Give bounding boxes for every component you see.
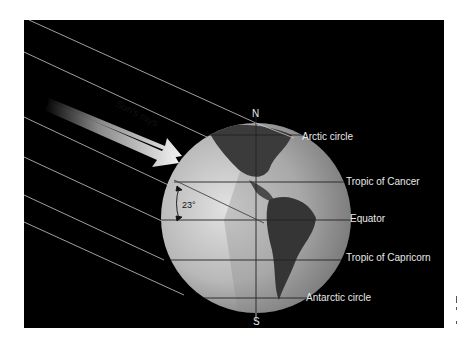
diagram-panel: Sun's rays N S 23° Arctic circle Tropic … xyxy=(24,20,444,328)
sun-rays-arrow xyxy=(44,98,182,167)
tropic-of-cancer-label: Tropic of Cancer xyxy=(346,176,420,187)
antarctic-circle-label: Antarctic circle xyxy=(306,292,371,303)
tropic-of-capricorn-label: Tropic of Capricorn xyxy=(346,252,431,263)
earth-diagram-svg xyxy=(24,20,444,328)
equator-label: Equator xyxy=(350,213,385,224)
south-pole-label: S xyxy=(253,316,260,327)
edge-mark xyxy=(456,321,457,324)
north-pole-label: N xyxy=(252,108,259,119)
angle-label: 23° xyxy=(182,200,196,210)
edge-mark xyxy=(456,296,457,303)
arctic-circle-label: Arctic circle xyxy=(302,131,353,142)
edge-mark xyxy=(456,307,457,310)
